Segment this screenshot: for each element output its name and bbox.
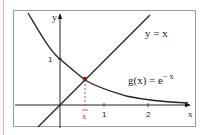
y-tick-label-1: 1 [48,55,53,64]
y-axis-label: y [52,12,57,23]
intersection-point [83,77,87,81]
fixed-point-plot: y x 1 1 2 y = x g(x) = e− x x [0,0,206,135]
x-axis-label: x [188,109,193,119]
x-tick-label-1: 1 [102,110,107,119]
line-y-equals-x [38,15,150,127]
x-tick-label-2: 2 [146,110,151,119]
line-label: y = x [145,27,168,39]
xbar-label: x [82,111,87,121]
curve-label: g(x) = e− x [128,72,173,87]
